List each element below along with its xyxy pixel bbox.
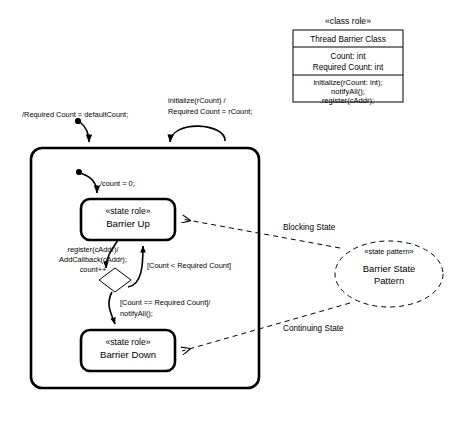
state-barrier-up-name: Barrier Up (106, 218, 150, 229)
class-role-attribute-required-count: Required Count: int (313, 63, 384, 72)
state-barrier-up-stereotype: «state role» (106, 206, 151, 216)
class-role-operation-register: register(cAddr); (322, 96, 374, 105)
role-link-continuing-state-label: Continuing State (283, 324, 344, 333)
state-barrier-down-stereotype: «state role» (106, 337, 151, 347)
transition-guard-equal-label-line1: [Count == Required Count]/ (120, 298, 211, 307)
class-role-operation-notifyall: notifyAll(); (331, 87, 365, 96)
transition-initial-inner-line (82, 174, 98, 194)
state-barrier-up: «state role» Barrier Up (81, 199, 175, 240)
class-role-box: «class role» Thread Barrier Class Count:… (293, 16, 403, 105)
state-pattern-name-line1: Barrier State (363, 263, 416, 274)
diagram-canvas: «class role» Thread Barrier Class Count:… (0, 0, 463, 422)
transition-guard-less-label: [Count < Required Count] (147, 261, 231, 270)
state-barrier-down-name: Barrier Down (100, 349, 156, 360)
transition-register-label-line2: AddCallback(cAddr); (59, 255, 127, 264)
role-link-blocking-state: Blocking State (182, 219, 340, 248)
role-link-continuing-state: Continuing State (182, 303, 350, 351)
transition-register-label-line1: register(cAddr)/ (68, 245, 120, 254)
transition-guard-equal-label-line2: notifyAll(); (120, 309, 153, 318)
transition-default-count: /Required Count = defaultCount; (22, 110, 128, 142)
transition-initialize-line (170, 126, 225, 142)
class-role-name: Thread Barrier Class (310, 35, 386, 44)
transition-guard-equal: [Count == Required Count]/ notifyAll(); (109, 292, 211, 324)
transition-guard-equal-line (109, 292, 115, 324)
class-role-attribute-count: Count: int (330, 52, 366, 61)
transition-initialize-label-line1: initialize(rCount) / (168, 96, 226, 105)
uml-state-diagram: «class role» Thread Barrier Class Count:… (0, 0, 463, 422)
state-pattern-ellipse: «state pattern» Barrier State Pattern (335, 241, 443, 307)
transition-initial-inner-label: /count = 0; (100, 179, 135, 188)
class-role-stereotype: «class role» (325, 16, 371, 26)
state-pattern-name-line2: Pattern (374, 275, 404, 286)
transition-initial-inner: /count = 0; (76, 169, 135, 193)
transition-initialize-label-line2: Required Count = rCount; (168, 107, 252, 116)
transition-default-count-line (81, 123, 90, 143)
transition-default-count-label: /Required Count = defaultCount; (22, 110, 128, 119)
transition-initialize: initialize(rCount) / Required Count = rC… (168, 96, 252, 142)
class-role-operation-initialize: initialize(rCount: int); (313, 78, 382, 87)
state-pattern-stereotype: «state pattern» (364, 247, 413, 256)
state-barrier-down: «state role» Barrier Down (81, 330, 175, 371)
transition-register-label-line3: count++ (80, 265, 107, 274)
transition-guard-less: [Count < Required Count] (128, 246, 231, 287)
initial-pseudostate-inner (76, 169, 82, 175)
role-link-blocking-state-label: Blocking State (283, 223, 336, 232)
